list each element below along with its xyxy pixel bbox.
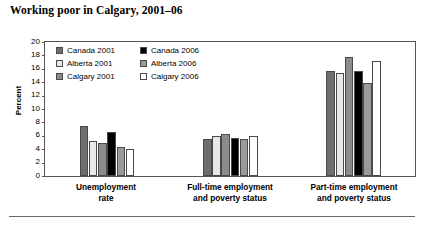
x-axis-category-label: Full-time employmentand poverty status [168, 182, 292, 204]
y-tick-label: 16 [31, 63, 40, 72]
bar [363, 83, 372, 176]
x-axis-category-line: Full-time employment [168, 182, 292, 193]
legend-item: Alberta 2001 [56, 57, 140, 70]
legend-item: Alberta 2006 [140, 57, 224, 70]
x-axis-category-line: rate [44, 193, 168, 204]
y-tick-label: 10 [31, 104, 40, 113]
x-axis-labels: UnemploymentrateFull-time employmentand … [44, 182, 416, 214]
x-axis-category-label: Part-time employmentand poverty status [292, 182, 416, 204]
legend-swatch-icon [56, 60, 63, 67]
chart-figure: Working poor in Calgary, 2001–06 Percent… [0, 0, 424, 226]
bar [249, 136, 258, 176]
bar [326, 71, 335, 176]
legend-label: Calgary 2001 [67, 72, 115, 81]
bar-group [292, 42, 415, 176]
legend-item: Canada 2006 [140, 44, 224, 57]
bar [98, 143, 107, 177]
bar [89, 141, 98, 176]
bar [336, 73, 345, 176]
bar [240, 139, 249, 176]
legend-label: Canada 2006 [151, 46, 199, 55]
bar [354, 71, 363, 176]
y-tick-label: 20 [31, 37, 40, 46]
legend-swatch-icon [56, 73, 63, 80]
y-tick-label: 18 [31, 50, 40, 59]
x-axis-category-line: Unemployment [44, 182, 168, 193]
bottom-divider [9, 216, 415, 217]
chart-legend: Canada 2001Canada 2006Alberta 2001Albert… [56, 44, 224, 83]
y-tick-label: 14 [31, 77, 40, 86]
y-tick-label: 2 [36, 157, 40, 166]
legend-item: Calgary 2001 [56, 70, 140, 83]
legend-item: Calgary 2006 [140, 70, 224, 83]
legend-swatch-icon [56, 47, 63, 54]
x-axis-category-label: Unemploymentrate [44, 182, 168, 204]
legend-label: Canada 2001 [67, 46, 115, 55]
bar [126, 149, 135, 176]
bar [372, 61, 381, 176]
y-tick-mark [42, 176, 45, 177]
x-axis-category-line: and poverty status [292, 193, 416, 204]
page-title: Working poor in Calgary, 2001–06 [10, 4, 183, 16]
y-tick-label: 6 [36, 130, 40, 139]
bar [212, 136, 221, 176]
x-axis-category-line: and poverty status [168, 193, 292, 204]
bar [345, 57, 354, 176]
bar [80, 126, 89, 176]
y-tick-label: 0 [36, 171, 40, 180]
legend-label: Alberta 2001 [67, 59, 112, 68]
y-tick-label: 8 [36, 117, 40, 126]
legend-swatch-icon [140, 73, 147, 80]
bar [203, 139, 212, 176]
legend-label: Alberta 2006 [151, 59, 196, 68]
legend-label: Calgary 2006 [151, 72, 199, 81]
bar [107, 132, 116, 176]
legend-swatch-icon [140, 60, 147, 67]
bar [221, 134, 230, 176]
legend-swatch-icon [140, 47, 147, 54]
legend-item: Canada 2001 [56, 44, 140, 57]
bar [117, 147, 126, 176]
bar [231, 138, 240, 176]
y-tick-label: 12 [31, 90, 40, 99]
y-tick-label: 4 [36, 144, 40, 153]
x-axis-category-line: Part-time employment [292, 182, 416, 193]
y-axis-label: Percent [14, 71, 23, 131]
